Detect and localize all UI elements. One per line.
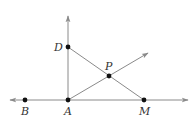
- point-b: [23, 98, 28, 103]
- label-p: P: [104, 60, 113, 73]
- point-p: [107, 74, 112, 79]
- label-d: D: [53, 41, 63, 54]
- geometry-diagram: D P B A M: [0, 0, 196, 126]
- point-a: [66, 98, 71, 103]
- point-d: [66, 45, 71, 50]
- label-b: B: [20, 105, 29, 118]
- segment-dm: [68, 47, 144, 100]
- point-m: [142, 98, 147, 103]
- label-a: A: [63, 105, 72, 118]
- label-m: M: [138, 105, 151, 118]
